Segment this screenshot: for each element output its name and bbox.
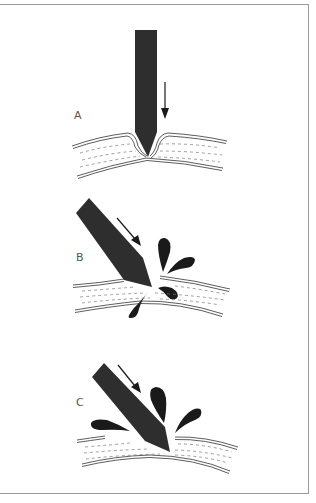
panel-b-label: B <box>76 251 84 264</box>
panel-a-label: A <box>74 109 82 122</box>
panel-c: C <box>76 363 238 474</box>
needle-b <box>76 198 152 287</box>
needle-diagram: A B <box>0 0 316 503</box>
needle-a <box>135 30 157 157</box>
panel-a: A <box>72 30 227 179</box>
panel-c-label: C <box>76 396 84 409</box>
tissue-b <box>73 276 230 317</box>
arrow-down-icon <box>161 82 169 119</box>
panel-b: B <box>73 198 230 318</box>
